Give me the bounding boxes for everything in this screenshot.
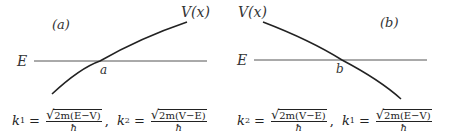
k1-symbol: k [342, 113, 350, 128]
k2-fraction: √2m(V−E) ħ [271, 108, 327, 133]
panel-a: (a) V(x) E a [16, 4, 210, 94]
turning-point-diagrams: (a) V(x) E a V(x) (b) E b [0, 0, 453, 104]
panel-b: V(x) (b) E b [236, 4, 427, 99]
panel-b-formula: k2 = √2m(V−E) ħ , k1 = √2m(E−V) ħ [237, 104, 434, 136]
panel-a-turning-point-label: a [100, 63, 107, 77]
panel-b-tag: (b) [380, 15, 398, 30]
panel-b-energy-label: E [236, 52, 247, 68]
k2-symbol: k [117, 113, 125, 128]
panel-a-tag: (a) [52, 17, 70, 32]
panel-a-potential-label: V(x) [181, 4, 210, 20]
k1-fraction: √2m(E−V) ħ [376, 108, 432, 133]
panel-b-turning-point-label: b [336, 62, 344, 76]
k1-fraction: √2m(E−V) ħ [46, 108, 102, 133]
k2-symbol: k [237, 113, 245, 128]
panel-a-potential-curve [52, 22, 187, 94]
panel-a-formula: k1 = √2m(E−V) ħ , k2 = √2m(V−E) ħ [12, 104, 209, 136]
panel-a-energy-label: E [16, 53, 27, 69]
k2-fraction: √2m(V−E) ħ [151, 108, 207, 133]
k1-symbol: k [12, 113, 20, 128]
panel-b-potential-label: V(x) [238, 4, 267, 20]
